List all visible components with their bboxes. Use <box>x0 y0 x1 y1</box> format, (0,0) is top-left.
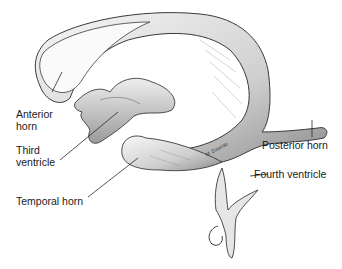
label-third-ventricle-line2: ventricle <box>16 156 55 168</box>
leader-temporal-horn <box>88 158 138 197</box>
label-temporal-horn: Temporal horn <box>16 195 83 207</box>
label-anterior-horn-line1: Anterior <box>16 108 53 120</box>
fourth-ventricle-shape <box>215 168 258 258</box>
label-fourth-ventricle: Fourth ventricle <box>254 168 326 180</box>
label-posterior-horn: Posterior horn <box>262 139 328 151</box>
third-ventricle-shape <box>75 78 175 143</box>
label-third-ventricle: Third ventricle <box>16 144 55 168</box>
ventricles-illustration <box>0 0 342 269</box>
label-third-ventricle-line1: Third <box>16 144 55 156</box>
label-anterior-horn-line2: horn <box>16 120 53 132</box>
label-anterior-horn: Anterior horn <box>16 108 53 132</box>
